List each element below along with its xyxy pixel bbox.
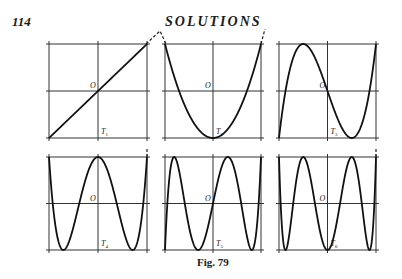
panel-t2: OT2 — [162, 41, 264, 141]
dashed-connector-t1-t2 — [146, 31, 166, 44]
panel-t5: OT5 — [162, 154, 264, 253]
origin-label: O — [90, 194, 96, 203]
origin-label: O — [205, 81, 211, 90]
panel-t4: OT4 — [46, 154, 150, 253]
panel-label: T6 — [331, 239, 338, 249]
dashed-extension-t2 — [261, 29, 265, 44]
origin-label: O — [320, 81, 326, 90]
chebyshev-figure: OT1OT2OT3OT4OT5OT6 — [0, 0, 402, 279]
origin-label: O — [320, 194, 326, 203]
panel-t1: OT1 — [46, 41, 150, 141]
panel-label: T3 — [331, 127, 338, 137]
origin-label: O — [90, 81, 96, 90]
origin-label: O — [205, 194, 211, 203]
panel-label: T1 — [101, 127, 108, 137]
panel-label: T2 — [216, 127, 223, 137]
panel-t6: OT6 — [276, 154, 379, 253]
panel-label: T5 — [216, 239, 223, 249]
figure-caption: Fig. 79 — [197, 256, 229, 268]
panel-t3: OT3 — [276, 41, 379, 141]
panel-label: T4 — [101, 239, 108, 249]
